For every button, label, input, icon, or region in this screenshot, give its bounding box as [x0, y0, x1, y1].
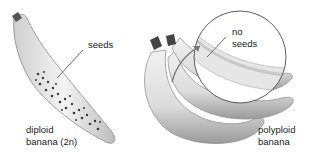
diploid-caption-line1: diploid [26, 124, 53, 135]
polyploid-caption-line1: polyploid [258, 124, 296, 135]
seeds-pointer-line [57, 50, 83, 78]
no-seeds-label-line1: no [232, 26, 243, 37]
polyploid-caption-line2: banana [258, 136, 290, 147]
no-seeds-label-line2: seeds [232, 38, 257, 49]
diploid-caption-line2: banana (2n) [26, 136, 77, 147]
seeds-label: seeds [88, 39, 113, 50]
